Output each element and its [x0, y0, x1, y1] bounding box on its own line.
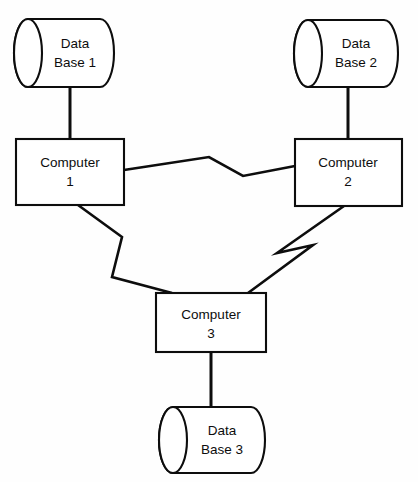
link-computer1-to-computer2: [124, 157, 295, 176]
computer-3-label-line1: Computer: [181, 307, 241, 322]
computer-1-box: [16, 139, 124, 205]
node-computer-3[interactable]: Computer 3: [156, 293, 266, 352]
database-2-label-line1: Data: [342, 36, 371, 51]
computer-1-label-line1: Computer: [40, 155, 100, 170]
link-computer1-to-computer3: [78, 205, 172, 293]
computer-2-label-line2: 2: [344, 174, 352, 189]
computer-3-box: [156, 293, 266, 352]
computer-1-label-line2: 1: [66, 174, 74, 189]
database-3-cylinder-face: [159, 407, 187, 473]
link-computer2-to-computer3: [248, 206, 344, 293]
database-1-cylinder-face: [14, 19, 42, 87]
computer-2-box: [295, 139, 402, 206]
network-diagram: Data Base 1 Data Base 2 Computer 1 Compu…: [0, 0, 418, 482]
database-1-label-line1: Data: [61, 36, 90, 51]
diagram-canvas: Data Base 1 Data Base 2 Computer 1 Compu…: [0, 0, 418, 482]
node-database-3[interactable]: Data Base 3: [159, 407, 265, 473]
node-database-2[interactable]: Data Base 2: [294, 20, 398, 87]
database-1-label-line2: Base 1: [54, 55, 96, 70]
database-2-cylinder-face: [294, 20, 322, 87]
computer-3-label-line2: 3: [207, 326, 215, 341]
database-2-label-line2: Base 2: [335, 55, 377, 70]
node-computer-2[interactable]: Computer 2: [295, 139, 402, 206]
node-computer-1[interactable]: Computer 1: [16, 139, 124, 205]
computer-2-label-line1: Computer: [318, 155, 378, 170]
node-database-1[interactable]: Data Base 1: [14, 19, 114, 87]
database-3-label-line2: Base 3: [201, 442, 243, 457]
link-layer: [70, 87, 348, 407]
database-3-label-line1: Data: [208, 423, 237, 438]
